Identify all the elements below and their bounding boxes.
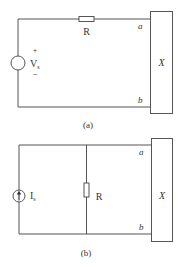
- caption-a: (a): [83, 120, 93, 130]
- circuit-a: R + Vs − a b X (a): [11, 12, 173, 131]
- voltage-source-icon: [11, 56, 25, 70]
- load-label: X: [158, 190, 166, 201]
- terminal-b-label: b: [138, 95, 143, 105]
- resistor-label: R: [96, 191, 103, 202]
- resistor-icon: [79, 17, 94, 22]
- source-minus-sign: −: [32, 69, 37, 79]
- resistor-label: R: [83, 26, 90, 37]
- terminal-a-label: a: [139, 147, 144, 157]
- caption-b: (b): [81, 248, 92, 258]
- circuit-diagrams: R + Vs − a b X (a) R Is: [0, 0, 180, 267]
- circuit-b: R Is a b X (b): [13, 139, 173, 259]
- terminal-b-label: b: [139, 222, 144, 232]
- resistor-icon: [84, 183, 89, 197]
- load-label: X: [157, 57, 165, 68]
- terminal-a-label: a: [138, 21, 143, 31]
- source-plus-sign: +: [33, 46, 38, 55]
- source-label: Is: [30, 190, 36, 202]
